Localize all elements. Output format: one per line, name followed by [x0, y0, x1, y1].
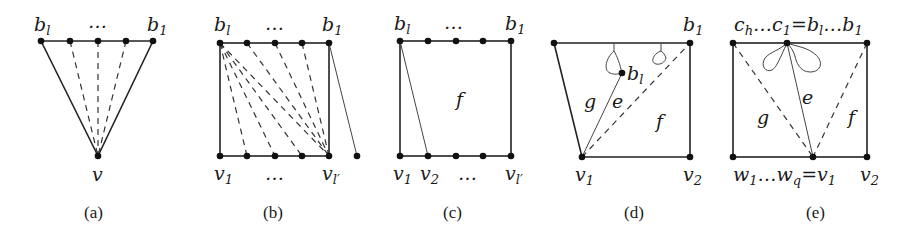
label-v2: v2	[420, 162, 439, 187]
vertex	[453, 153, 460, 160]
label-bl: bl	[394, 12, 410, 37]
dashed-edge	[302, 43, 329, 156]
dashed-edge	[247, 43, 329, 156]
figure-canvas: bl … b1 v (a) bl … b1 v1 … vl′ (b)	[0, 0, 923, 242]
caption-d: (d)	[624, 203, 644, 222]
vertex	[480, 38, 487, 45]
vertex	[299, 40, 306, 47]
panel-d: b1 bl g e f v1 v2 (d)	[551, 13, 704, 222]
vertex-c1	[784, 40, 791, 47]
vertex	[326, 153, 333, 160]
vertex-ch	[730, 40, 737, 47]
label-bottom-row: w1…wq=v1	[733, 163, 836, 188]
vertex	[272, 40, 279, 47]
chord-edge	[400, 41, 428, 156]
caption-c: (c)	[443, 203, 462, 222]
vertex-v2	[864, 154, 871, 161]
dashed-edge	[98, 41, 126, 156]
label-face-g: g	[584, 90, 596, 112]
label-bl: bl	[214, 13, 230, 38]
label-b1: b1	[322, 13, 342, 38]
vertex	[508, 38, 515, 45]
vertex	[425, 38, 432, 45]
label-dots: …	[265, 162, 284, 184]
label-face-g: g	[757, 106, 769, 128]
right-edge	[98, 41, 153, 156]
loop	[763, 43, 787, 71]
label-vl-prime: vl′	[505, 162, 523, 187]
caption-b: (b)	[263, 203, 283, 222]
vertex	[551, 40, 558, 47]
vertex	[480, 153, 487, 160]
dashed-diagonal	[582, 43, 690, 157]
panel-b: bl … b1 v1 … vl′ (b)	[214, 12, 360, 222]
dashed-edge	[275, 43, 329, 156]
label-face-f: f	[846, 106, 858, 128]
vertex-v2	[687, 154, 694, 161]
vertex-v1	[579, 154, 586, 161]
vertex	[453, 38, 460, 45]
vertex	[397, 153, 404, 160]
vertex	[326, 40, 333, 47]
loop	[606, 43, 622, 74]
label-v: v	[92, 163, 103, 185]
label-face-f: f	[454, 88, 466, 110]
vertex	[272, 153, 279, 160]
dashed-edge-g	[733, 43, 813, 157]
label-dots: …	[265, 12, 284, 34]
caption-e: (e)	[806, 203, 825, 222]
outer-edge	[329, 43, 357, 156]
vertex	[354, 153, 361, 160]
vertex	[95, 38, 102, 45]
label-dots: …	[444, 11, 463, 33]
dashed-edge	[220, 43, 247, 156]
label-edge-e: e	[612, 90, 623, 112]
label-dots: …	[458, 162, 477, 184]
edge-e	[582, 73, 622, 157]
label-v1: v1	[214, 162, 233, 187]
vertex	[425, 153, 432, 160]
loop	[653, 43, 666, 64]
label-v1: v1	[575, 163, 594, 188]
label-b1: b1	[147, 13, 167, 38]
left-edge	[41, 41, 98, 156]
vertex-b1	[687, 40, 694, 47]
vertex-b1	[864, 40, 871, 47]
label-bl: bl	[34, 13, 50, 38]
dashed-edge	[70, 41, 98, 156]
vertex	[38, 38, 45, 45]
panel-e: ch…c1=bl…b1 e g f w1…wq=v1 v2 (e)	[730, 13, 879, 222]
dashed-edge-f	[813, 43, 867, 157]
panel-c: bl … b1 f v1 v2 … vl′ (c)	[393, 11, 525, 222]
vertex	[299, 153, 306, 160]
label-face-f: f	[654, 110, 666, 132]
loop	[787, 43, 820, 72]
label-v2: v2	[860, 163, 879, 188]
vertex	[150, 38, 157, 45]
label-dots: …	[88, 10, 107, 32]
label-b1: b1	[505, 12, 525, 37]
caption-a: (a)	[84, 203, 103, 222]
vertex-bl	[619, 70, 626, 77]
vertex	[217, 40, 224, 47]
vertex-v	[95, 153, 102, 160]
vertex	[508, 153, 515, 160]
vertex	[217, 153, 224, 160]
label-b1: b1	[683, 13, 703, 38]
label-top-row: ch…c1=bl…b1	[734, 13, 863, 38]
dashed-edge	[220, 43, 302, 156]
dashed-edge	[220, 43, 275, 156]
vertex	[244, 40, 251, 47]
vertex	[244, 153, 251, 160]
vertex-wq	[810, 154, 817, 161]
panel-a: bl … b1 v (a)	[34, 10, 167, 222]
label-v1: v1	[393, 162, 412, 187]
vertex-w1	[730, 154, 737, 161]
vertex	[67, 38, 74, 45]
label-vl-prime: vl′	[322, 162, 340, 187]
dashed-edge	[220, 43, 329, 156]
vertex	[397, 38, 404, 45]
label-edge-e: e	[802, 86, 813, 108]
vertex	[123, 38, 130, 45]
label-v2: v2	[683, 163, 702, 188]
